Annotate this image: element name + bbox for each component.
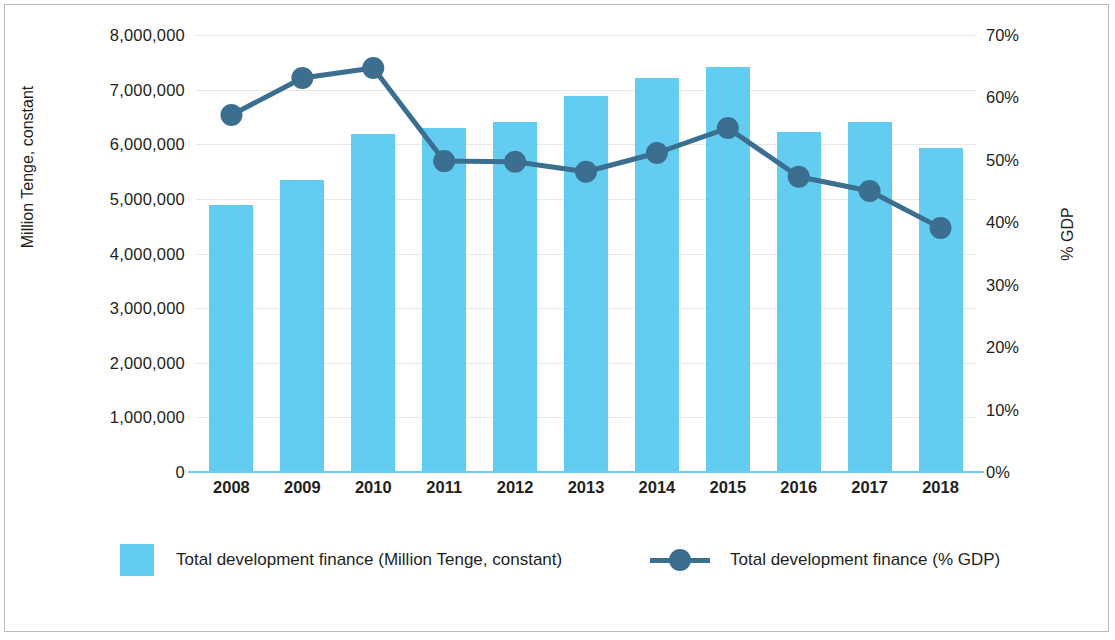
y-axis-left-tick: 1,000,000 (15, 408, 185, 427)
bar (493, 122, 537, 472)
bar (919, 148, 963, 472)
y-axis-left-tick: 3,000,000 (15, 299, 185, 318)
y-axis-left-tick: 7,000,000 (15, 80, 185, 99)
y-axis-right-tick: 60% (986, 88, 1019, 107)
bar (635, 78, 679, 472)
y-axis-left: 01,000,0002,000,0003,000,0004,000,0005,0… (14, 35, 186, 472)
y-axis-right-tick: 50% (986, 150, 1019, 169)
bar (422, 128, 466, 472)
y-axis-left-tick: 8,000,000 (15, 26, 185, 45)
y-axis-right-tick: 20% (986, 338, 1019, 357)
bar (706, 67, 750, 472)
x-axis-tick: 2014 (639, 478, 676, 497)
x-axis-tick: 2013 (568, 478, 605, 497)
data-point-marker (291, 67, 313, 89)
x-axis-tick: 2009 (284, 478, 321, 497)
bar (351, 134, 395, 472)
y-axis-left-tick: 6,000,000 (15, 135, 185, 154)
y-axis-right: 0%10%20%30%40%50%60%70% (986, 35, 1066, 472)
bar (564, 96, 608, 472)
bar (848, 122, 892, 472)
x-axis-tick: 2010 (355, 478, 392, 497)
legend-label-bar: Total development finance (Million Tenge… (176, 550, 562, 570)
bar (209, 205, 253, 472)
x-axis: 2008200920102011201220132014201520162017… (196, 478, 976, 506)
y-axis-left-tick: 4,000,000 (15, 244, 185, 263)
axis-baseline (188, 471, 984, 473)
y-axis-right-tick: 0% (986, 463, 1010, 482)
y-axis-left-tick: 5,000,000 (15, 189, 185, 208)
legend-item-line: Total development finance (% GDP) (650, 540, 1000, 580)
x-axis-tick: 2017 (851, 478, 888, 497)
plot-area (196, 35, 976, 472)
x-axis-tick: 2018 (922, 478, 959, 497)
bar (777, 132, 821, 472)
y-axis-right-tick: 10% (986, 400, 1019, 419)
gridline (196, 90, 976, 91)
data-point-marker (362, 57, 384, 79)
data-point-marker (220, 104, 242, 126)
y-axis-right-tick: 30% (986, 275, 1019, 294)
x-axis-tick: 2016 (780, 478, 817, 497)
legend-label-line: Total development finance (% GDP) (730, 550, 1000, 570)
x-axis-tick: 2015 (709, 478, 746, 497)
y-axis-right-tick: 70% (986, 26, 1019, 45)
x-axis-tick: 2008 (213, 478, 250, 497)
y-axis-left-tick: 0 (15, 463, 185, 482)
chart-page: Million Tenge, constant % GDP 01,000,000… (0, 0, 1115, 640)
y-axis-right-tick: 40% (986, 213, 1019, 232)
bar (280, 180, 324, 472)
x-axis-tick: 2012 (497, 478, 534, 497)
legend-item-bar: Total development finance (Million Tenge… (120, 540, 562, 580)
gridline (196, 35, 976, 36)
legend-swatch-icon (120, 544, 154, 576)
legend-line-icon (650, 544, 710, 576)
chart-legend: Total development finance (Million Tenge… (120, 540, 1080, 584)
y-axis-left-tick: 2,000,000 (15, 353, 185, 372)
x-axis-tick: 2011 (426, 478, 462, 497)
